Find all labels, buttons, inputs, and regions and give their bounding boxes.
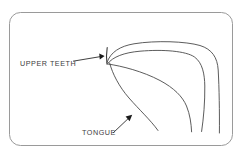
tongue-label: TONGUE bbox=[82, 128, 116, 137]
upper-teeth-label: UPPER TEETH bbox=[20, 59, 76, 68]
oral-cavity-diagram: UPPER TEETH TONGUE bbox=[0, 0, 245, 157]
diagram-canvas: UPPER TEETH TONGUE bbox=[0, 0, 245, 157]
